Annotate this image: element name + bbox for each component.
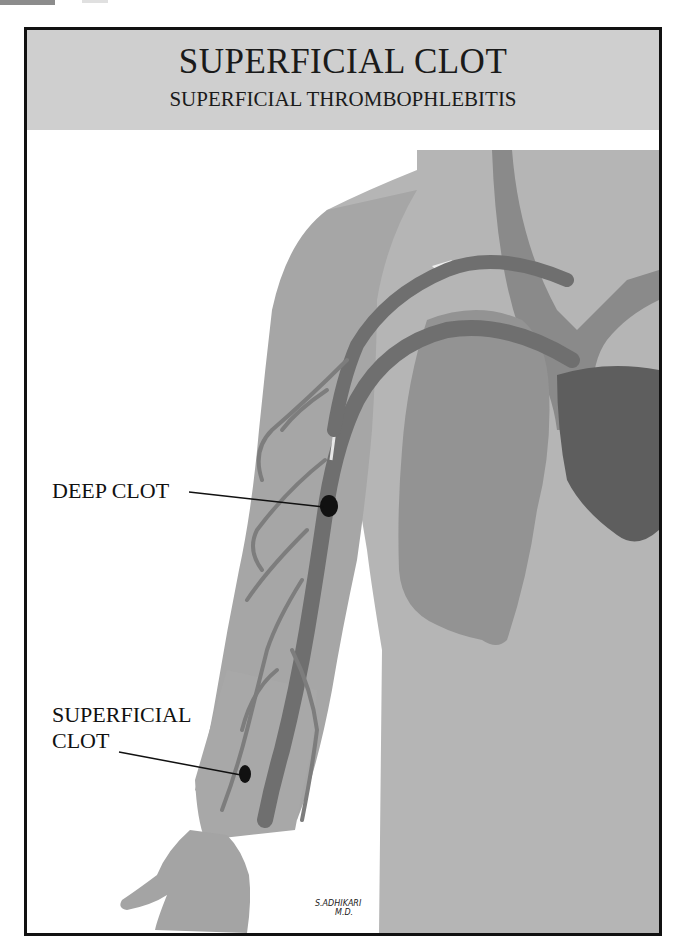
page-title: SUPERFICIAL CLOT xyxy=(27,42,659,82)
top-strip xyxy=(0,0,55,5)
anatomy-illustration xyxy=(27,130,659,933)
top-strip-text xyxy=(82,0,108,3)
hand xyxy=(120,830,250,933)
header-banner: SUPERFICIAL CLOT SUPERFICIAL THROMBOPHLE… xyxy=(27,30,659,130)
deep-clot-marker xyxy=(320,495,338,517)
signature-credential: M.D. xyxy=(315,909,361,918)
superficial-clot-label-line2: CLOT xyxy=(52,728,191,754)
superficial-clot-label-line1: SUPERFICIAL xyxy=(52,702,191,728)
illustration-frame: SUPERFICIAL CLOT SUPERFICIAL THROMBOPHLE… xyxy=(24,27,662,936)
superficial-clot-label: SUPERFICIAL CLOT xyxy=(52,702,191,754)
page-subtitle: SUPERFICIAL THROMBOPHLEBITIS xyxy=(27,87,659,112)
artist-signature: S.ADHIKARI M.D. xyxy=(315,900,361,918)
superficial-clot-marker xyxy=(239,765,251,783)
deep-clot-label: DEEP CLOT xyxy=(52,478,169,504)
